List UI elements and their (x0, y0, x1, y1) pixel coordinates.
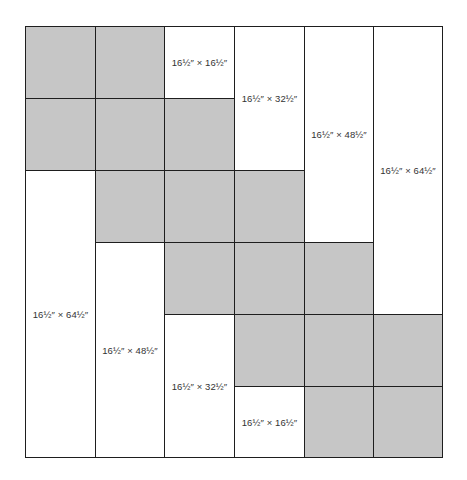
gray-square (25, 98, 96, 171)
gray-square (164, 98, 235, 171)
gray-square (234, 314, 305, 387)
gray-square (95, 170, 165, 243)
gray-square (304, 242, 374, 315)
gray-square (373, 314, 443, 387)
white-piece-16x32-bottom: 16½″ × 32½″ (164, 314, 235, 458)
dimension-label: 16½″ × 32½″ (242, 93, 298, 104)
white-piece-16x16-bottom: 16½″ × 16½″ (234, 386, 305, 458)
gray-square (164, 242, 235, 315)
white-piece-16x48-top: 16½″ × 48½″ (304, 26, 374, 243)
dimension-label: 16½″ × 48½″ (311, 129, 367, 140)
dimension-label: 16½″ × 64½″ (33, 309, 89, 320)
white-piece-16x32-top: 16½″ × 32½″ (234, 26, 305, 171)
white-piece-16x48-bottom: 16½″ × 48½″ (95, 242, 165, 458)
dimension-label: 16½″ × 64½″ (380, 165, 436, 176)
gray-square (373, 386, 443, 458)
gray-square (25, 26, 96, 99)
gray-square (234, 170, 305, 243)
quilt-diagram: 16½″ × 16½″ 16½″ × 32½″ 16½″ × 48½″ 16½″… (25, 26, 443, 458)
dimension-label: 16½″ × 16½″ (242, 417, 298, 428)
gray-square (304, 314, 374, 387)
gray-square (95, 26, 165, 99)
dimension-label: 16½″ × 48½″ (102, 345, 158, 356)
dimension-label: 16½″ × 32½″ (172, 381, 228, 392)
gray-square (95, 98, 165, 171)
white-piece-16x16-top: 16½″ × 16½″ (164, 26, 235, 99)
white-piece-16x64-bottom: 16½″ × 64½″ (25, 170, 96, 458)
dimension-label: 16½″ × 16½″ (172, 57, 228, 68)
gray-square (234, 242, 305, 315)
white-piece-16x64-top: 16½″ × 64½″ (373, 26, 443, 315)
gray-square (164, 170, 235, 243)
gray-square (304, 386, 374, 458)
